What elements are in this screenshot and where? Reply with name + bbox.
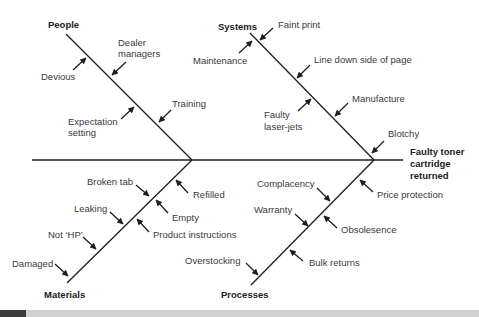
svg-text:Dealer: Dealer [118,37,146,48]
svg-text:Training: Training [172,98,206,109]
cause-faulty-laser-jets: Faulty laser-jets [264,99,311,132]
cause-line-down-side-of-page: Line down side of page [297,54,412,78]
cause-manufacture: Manufacture [335,93,405,116]
cause-dealer-managers: Dealer managers [112,37,160,75]
category-systems: Systems [218,21,257,32]
cause-complacency: Complacency [257,178,330,201]
cause-price-protection: Price protection [360,180,443,200]
svg-text:Broken tab: Broken tab [87,176,133,187]
svg-text:Blotchy: Blotchy [388,128,419,139]
cause-bulk-returns: Bulk returns [290,250,360,268]
cause-faint-print: Faint print [260,19,321,40]
svg-text:Faulty: Faulty [264,109,290,120]
footer-bar [26,310,479,317]
svg-text:laser-jets: laser-jets [264,121,303,132]
svg-text:Faint print: Faint print [278,19,321,30]
footer-bar-accent [0,310,26,317]
svg-text:Price protection: Price protection [377,189,443,200]
svg-text:Maintenance: Maintenance [193,55,247,66]
effect-label: Faulty toner cartridge returned [410,146,465,181]
svg-text:Warranty: Warranty [254,204,292,215]
cause-broken-tab: Broken tab [87,176,149,196]
cause-maintenance: Maintenance [193,41,252,66]
svg-text:Not ‘HP’: Not ‘HP’ [48,229,83,240]
svg-text:managers: managers [118,48,160,59]
svg-text:Line down side of page: Line down side of page [314,54,412,65]
cause-obsolesence: Obsolesence [324,216,396,235]
svg-text:returned: returned [410,170,449,181]
cause-training: Training [159,98,206,122]
svg-text:Obsolesence: Obsolesence [341,224,396,235]
svg-text:Manufacture: Manufacture [352,93,405,104]
cause-refilled: Refilled [176,180,225,200]
cause-empty: Empty [156,200,199,223]
cause-not-hp: Not ‘HP’ [48,229,96,249]
svg-text:Product instructions: Product instructions [153,229,237,240]
svg-text:cartridge: cartridge [410,158,451,169]
svg-text:Leaking: Leaking [74,203,107,214]
cause-overstocking: Overstocking [185,255,258,275]
cause-expectation-setting: Expectation setting [68,107,134,138]
fishbone-diagram: Faulty toner cartridge returned People S… [0,0,479,317]
svg-text:Bulk returns: Bulk returns [309,257,360,268]
category-processes: Processes [221,289,269,300]
svg-text:Devious: Devious [41,71,76,82]
cause-leaking: Leaking [74,203,123,224]
svg-text:setting: setting [68,127,96,138]
svg-text:Damaged: Damaged [12,258,53,269]
category-people: People [48,19,79,30]
category-materials: Materials [44,289,85,300]
cause-warranty: Warranty [254,204,308,226]
svg-text:Expectation: Expectation [68,116,118,127]
svg-text:Overstocking: Overstocking [185,255,240,266]
cause-devious: Devious [41,58,86,82]
svg-text:Complacency: Complacency [257,178,315,189]
cause-damaged: Damaged [12,258,68,276]
svg-text:Faulty toner: Faulty toner [410,146,465,157]
svg-text:Refilled: Refilled [193,189,225,200]
svg-text:Empty: Empty [172,212,199,223]
